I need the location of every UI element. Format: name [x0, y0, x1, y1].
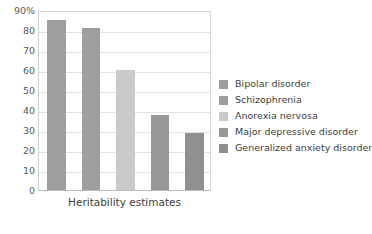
y-axis-tick-label: 30 — [1, 126, 35, 136]
legend-item[interactable]: Bipolar disorder — [219, 76, 372, 92]
y-axis-tick-label: 10 — [1, 166, 35, 176]
bar — [151, 115, 170, 190]
legend-item-label: Anorexia nervosa — [235, 111, 318, 121]
legend-swatch — [219, 144, 228, 153]
legend-swatch — [219, 80, 228, 89]
legend-item[interactable]: Major depressive disorder — [219, 124, 372, 140]
legend-swatch — [219, 96, 228, 105]
legend-swatch — [219, 128, 228, 137]
legend-swatch — [219, 112, 228, 121]
y-axis-tick-label: 40 — [1, 106, 35, 116]
legend-item-label: Generalized anxiety disorder — [235, 143, 372, 153]
legend-item[interactable]: Schizophrenia — [219, 92, 372, 108]
legend-item[interactable]: Anorexia nervosa — [219, 108, 372, 124]
bar — [47, 20, 66, 190]
legend-item-label: Major depressive disorder — [235, 127, 358, 137]
y-axis-tick-label: 20 — [1, 146, 35, 156]
x-axis-title: Heritability estimates — [38, 196, 211, 208]
bar — [185, 133, 204, 190]
plot-area — [38, 11, 211, 191]
legend: Bipolar disorderSchizophreniaAnorexia ne… — [219, 76, 372, 156]
legend-item-label: Bipolar disorder — [235, 79, 310, 89]
legend-item-label: Schizophrenia — [235, 95, 302, 105]
y-axis-tick-label: 90% — [1, 6, 35, 16]
legend-item[interactable]: Generalized anxiety disorder — [219, 140, 372, 156]
bars-group — [39, 12, 210, 190]
bar — [116, 70, 135, 190]
y-axis-tick-label: 60 — [1, 66, 35, 76]
y-axis-tick-label: 80 — [1, 26, 35, 36]
y-axis-tick-label: 70 — [1, 46, 35, 56]
bar — [82, 28, 101, 190]
y-axis-tick-label: 0 — [1, 186, 35, 196]
y-axis-tick-label: 50 — [1, 86, 35, 96]
